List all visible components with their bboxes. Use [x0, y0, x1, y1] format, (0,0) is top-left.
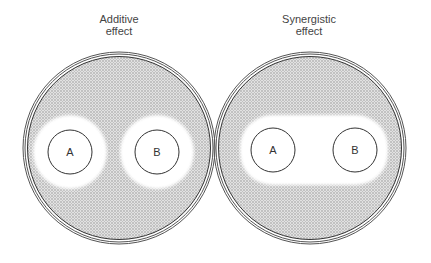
svg-text:A: A — [269, 144, 277, 156]
svg-text:A: A — [66, 146, 74, 158]
disk-a: A — [48, 130, 92, 174]
petri-dish-diagram: A B A B — [0, 0, 431, 263]
disk-b: B — [135, 130, 179, 174]
dish-synergistic: A B — [214, 52, 406, 244]
svg-text:B: B — [153, 146, 160, 158]
svg-text:B: B — [351, 144, 358, 156]
disk-a: A — [251, 128, 295, 172]
disk-b: B — [333, 128, 377, 172]
dish-additive: A B — [23, 52, 215, 244]
